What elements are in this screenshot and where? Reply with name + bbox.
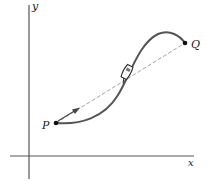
- x-axis-label: x: [188, 158, 194, 168]
- y-axis-label: y: [32, 1, 38, 12]
- point-q-label: Q: [191, 39, 200, 50]
- displacement-arrow: [58, 108, 80, 122]
- point-q-marker: [183, 41, 188, 46]
- point-p-marker: [54, 121, 59, 126]
- point-p-label: P: [42, 120, 49, 131]
- displacement-diagram: y x P Q: [0, 0, 212, 186]
